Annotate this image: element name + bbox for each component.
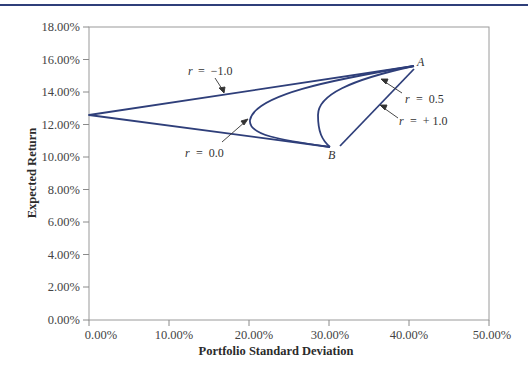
- annotation-r-05: r = 0.5: [405, 92, 444, 106]
- y-tick-label: 18.00%: [41, 20, 80, 34]
- annotation-r-pos1: r = + 1.0: [399, 114, 448, 128]
- point-a-label: A: [416, 55, 425, 69]
- plot-frame: [89, 27, 489, 320]
- y-tick-label: 10.00%: [41, 150, 80, 164]
- x-tick-label: 30.00%: [311, 328, 350, 342]
- y-tick-label: 16.00%: [41, 53, 80, 67]
- y-tick-label: 4.00%: [48, 248, 80, 262]
- svg-text:r: r: [188, 64, 193, 78]
- svg-text:r: r: [405, 92, 410, 106]
- annotation-r-neg1: r = −1.0: [188, 64, 233, 78]
- y-tick-label: 8.00%: [48, 183, 80, 197]
- point-b-label: B: [328, 148, 336, 162]
- annotation-r-0: r = 0.0: [185, 146, 224, 160]
- y-axis: [83, 27, 89, 320]
- x-tick-label: 20.00%: [235, 328, 274, 342]
- y-tick-label: 14.00%: [41, 85, 80, 99]
- svg-text:= 0.0: = 0.0: [196, 146, 224, 160]
- series-r-pos1: [340, 69, 414, 146]
- x-tick-label: 10.00%: [155, 328, 194, 342]
- y-tick-label: 2.00%: [48, 280, 80, 294]
- svg-text:r: r: [399, 114, 404, 128]
- y-axis-title: Expected Return: [25, 128, 39, 219]
- x-axis: [89, 320, 489, 326]
- svg-text:= 0.5: = 0.5: [416, 92, 444, 106]
- x-tick-label: 0.00%: [85, 328, 117, 342]
- x-tick-label: 50.00%: [473, 328, 512, 342]
- x-tick-label: 40.00%: [390, 328, 429, 342]
- svg-text:= −1.0: = −1.0: [198, 64, 233, 78]
- portfolio-frontier-chart: 18.00% 16.00% 14.00% 12.00% 10.00% 8.00%…: [0, 0, 528, 372]
- svg-text:= + 1.0: = + 1.0: [410, 114, 448, 128]
- x-axis-title: Portfolio Standard Deviation: [199, 344, 354, 358]
- y-tick-label: 0.00%: [48, 313, 80, 327]
- svg-text:r: r: [185, 146, 190, 160]
- y-tick-label: 12.00%: [41, 118, 80, 132]
- y-tick-label: 6.00%: [48, 215, 80, 229]
